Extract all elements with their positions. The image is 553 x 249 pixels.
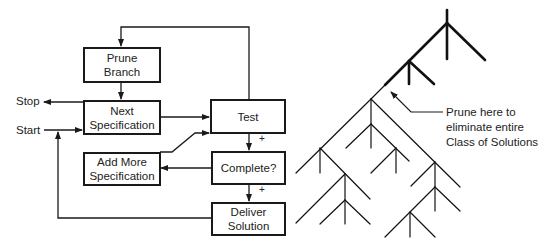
prune-branch-box: Prune Branch <box>83 47 161 83</box>
addmore-to-test-arrow <box>160 133 209 152</box>
next-specification-box: Next Specification <box>83 100 161 135</box>
prune-annotation: Prune here to eliminate entire Class of … <box>446 105 538 150</box>
add-more-specification-box: Add More Specification <box>83 152 161 186</box>
test-box: Test <box>210 99 286 134</box>
remaining-tree <box>296 85 460 237</box>
start-label: Start <box>16 123 40 137</box>
plus-complete-deliver: + <box>259 184 265 195</box>
plus-test-complete: + <box>259 133 265 144</box>
complete-box: Complete? <box>211 151 286 185</box>
stop-label: Stop <box>16 94 40 108</box>
pruned-branch <box>385 10 485 85</box>
prune-pointer <box>391 92 443 112</box>
deliver-solution-box: Deliver Solution <box>211 202 286 236</box>
